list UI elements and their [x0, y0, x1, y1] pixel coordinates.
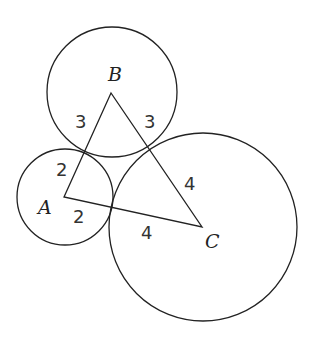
- vertex-label-c: C: [205, 230, 220, 252]
- segment-label-ac-a: 2: [73, 206, 84, 227]
- circle-c: [109, 133, 297, 321]
- segment-label-ab-b: 3: [75, 111, 86, 132]
- segment-label-bc-b: 3: [144, 111, 155, 132]
- segment-label-ab-a: 2: [56, 159, 67, 180]
- segment-label-bc-c: 4: [184, 173, 195, 194]
- vertex-label-a: A: [36, 196, 52, 218]
- circle-b: [47, 27, 177, 157]
- tangent-circles-diagram: B A C 3 3 2 2 4 4: [0, 0, 311, 340]
- vertex-label-b: B: [107, 63, 122, 85]
- segment-label-ac-c: 4: [141, 222, 152, 243]
